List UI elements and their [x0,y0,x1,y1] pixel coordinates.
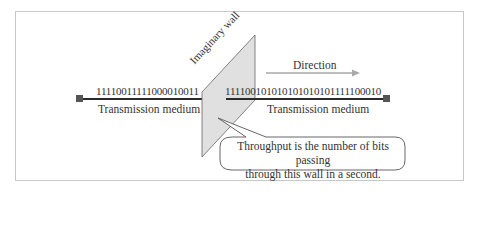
right-medium-label: Transmission medium [267,104,369,116]
right-bit-stream: 111100101010101010101111100010 [225,86,381,97]
left-bit-stream: 11110011111000010011 [96,86,199,97]
callout-text: Throughput is the number of bits passing… [221,139,405,181]
left-endpoint-icon [76,95,83,102]
right-endpoint-icon [383,95,390,102]
callout-line-1: Throughput is the number of bits passing [221,139,405,167]
left-medium-label: Transmission medium [98,104,200,116]
direction-label: Direction [293,60,336,72]
callout-line-2: through this wall in a second. [221,167,405,181]
direction-arrow-icon [352,70,360,77]
